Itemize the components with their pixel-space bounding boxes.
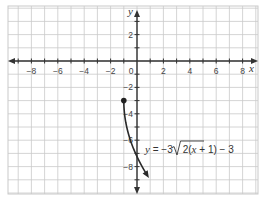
x-tick-label: −8: [27, 66, 37, 76]
eq-constant: − 3: [217, 144, 234, 155]
grid: [8, 6, 258, 194]
x-axis-left-arrow-icon: [8, 58, 15, 64]
eq-coef: = −3: [150, 144, 173, 155]
y-axis-up-arrow-icon: [134, 10, 140, 17]
y-tick-label: 2: [128, 30, 133, 40]
x-tick-label: −6: [53, 66, 63, 76]
x-tick-label: 6: [214, 66, 219, 76]
start-point-marker: [121, 98, 127, 104]
x-tick-label: 8: [240, 66, 245, 76]
equation-label: y = −32(x + 1) − 3: [144, 141, 234, 155]
y-tick-label: −8: [123, 162, 133, 172]
x-tick-label: 4: [187, 66, 192, 76]
x-tick-label: −2: [106, 66, 116, 76]
y-axis-label: y: [127, 5, 133, 17]
x-axis-label: x: [248, 62, 254, 74]
x-tick-label: −4: [79, 66, 89, 76]
x-tick-label: 0: [129, 66, 134, 76]
svg-text:y = −32(x + 1) − 3: y = −32(x + 1) − 3: [144, 143, 234, 155]
y-tick-label: −2: [123, 82, 133, 92]
graph: −8−6−4−2024682−2−4−6−8 x y y = −32(x + 1…: [0, 0, 265, 204]
x-tick-label: 2: [161, 66, 166, 76]
eq-radicand-close: + 1): [197, 144, 217, 155]
